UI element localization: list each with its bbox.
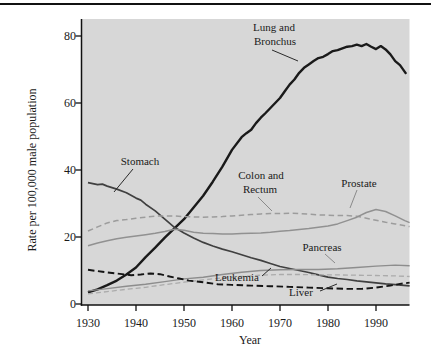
lung-label-line2: Bronchus xyxy=(254,35,296,47)
x-tick-1970: 1970 xyxy=(268,316,292,330)
y-tick-0: 0 xyxy=(70,297,76,311)
y-tick-80: 80 xyxy=(64,29,76,43)
stomach-label: Stomach xyxy=(121,155,160,167)
top-rule xyxy=(0,3,431,5)
y-tick-marks xyxy=(76,36,82,304)
pancreas-label: Pancreas xyxy=(302,241,341,253)
x-tick-1990: 1990 xyxy=(364,316,388,330)
cancer-rates-line-chart: 80 60 40 20 0 1930 1940 1950 1960 1970 1… xyxy=(0,0,431,351)
prostate-label: Prostate xyxy=(341,177,377,189)
liver-label: Liver xyxy=(289,286,313,298)
lung-label-line1: Lung and xyxy=(253,21,295,33)
x-tick-1930: 1930 xyxy=(76,316,100,330)
x-tick-1980: 1980 xyxy=(316,316,340,330)
x-tick-marks xyxy=(88,305,376,311)
y-tick-20: 20 xyxy=(64,230,76,244)
x-tick-1940: 1940 xyxy=(124,316,148,330)
y-axis-title: Rate per 100,000 male population xyxy=(25,89,39,252)
figure-canvas: 80 60 40 20 0 1930 1940 1950 1960 1970 1… xyxy=(0,0,431,351)
x-tick-1950: 1950 xyxy=(172,316,196,330)
x-axis-title: Year xyxy=(239,333,261,347)
colon-rectum-label-line1: Colon and xyxy=(238,169,284,181)
x-tick-1960: 1960 xyxy=(220,316,244,330)
leukemia-label: Leukemia xyxy=(215,271,259,283)
colon-rectum-label-line2: Rectum xyxy=(243,183,278,195)
y-tick-60: 60 xyxy=(64,96,76,110)
y-tick-40: 40 xyxy=(64,163,76,177)
